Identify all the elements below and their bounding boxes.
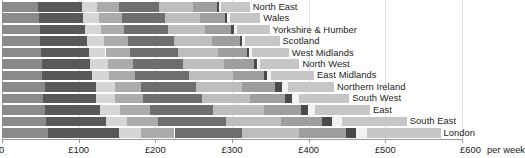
bar-segment[interactable] [292,94,299,104]
bar-segment[interactable] [90,59,108,69]
bar-segment[interactable] [299,94,350,104]
bar-segment[interactable] [332,117,341,127]
bar-segment[interactable] [264,105,301,115]
bar-segment[interactable] [130,48,178,58]
bar-segment[interactable] [42,59,90,69]
bar-segment[interactable] [43,94,97,104]
bar-segment[interactable] [96,94,114,104]
bar-segment[interactable] [275,82,282,92]
bar-segment[interactable] [356,128,367,138]
bar-segment[interactable] [42,71,92,81]
bar-segment[interactable] [299,128,347,138]
bar-segment[interactable] [260,59,299,69]
bar-segment[interactable] [2,2,38,12]
bar-segment[interactable] [2,128,48,138]
bar-segment[interactable] [322,117,333,127]
bar-segment[interactable] [183,59,224,69]
bar-segment[interactable] [205,25,231,35]
bar-segment[interactable] [40,36,87,46]
bar-segment[interactable] [92,71,110,81]
bar-segment[interactable] [2,25,40,35]
bar-segment[interactable] [224,59,254,69]
bar-segment[interactable] [97,2,118,12]
bar-segment[interactable] [119,2,160,12]
bar-segment[interactable] [175,128,242,138]
bar-segment[interactable] [89,48,106,58]
bar-segment[interactable] [2,94,43,104]
bar-segment[interactable] [178,48,218,58]
bar-segment[interactable] [165,13,200,23]
bar-segment[interactable] [367,128,441,138]
bar-segment[interactable] [99,13,121,23]
bar-segment[interactable] [301,105,308,115]
bar-segment[interactable] [150,105,213,115]
bar-segment[interactable] [226,117,281,127]
bar-segment[interactable] [2,48,41,58]
bar-segment[interactable] [82,2,97,12]
bar-segment[interactable] [346,128,356,138]
bar-segment[interactable] [127,117,158,127]
bar-segment[interactable] [200,13,225,23]
bar-segment[interactable] [202,94,250,104]
bar-segment[interactable] [230,13,261,23]
bar-segment[interactable] [41,48,89,58]
bar-segment[interactable] [212,36,240,46]
bar-segment[interactable] [109,71,135,81]
bar-segment[interactable] [2,117,46,127]
bar-segment[interactable] [213,105,264,115]
bar-segment[interactable] [141,82,196,92]
bar-segment[interactable] [122,13,165,23]
bar-segment[interactable] [218,48,246,58]
bar-segment[interactable] [83,13,99,23]
bar-segment[interactable] [2,36,40,46]
bar-segment[interactable] [288,82,334,92]
bar-segment[interactable] [271,71,314,81]
bar-segment[interactable] [48,128,119,138]
bar-segment[interactable] [128,36,174,46]
bar-segment[interactable] [101,25,124,35]
bar-segment[interactable] [106,117,127,127]
bar-segment[interactable] [87,36,104,46]
bar-segment[interactable] [158,117,225,127]
bar-segment[interactable] [100,105,120,115]
bar-segment[interactable] [315,105,370,115]
bar-segment[interactable] [115,82,140,92]
bar-segment[interactable] [2,59,42,69]
bar-segment[interactable] [85,25,101,35]
bar-segment[interactable] [168,25,205,35]
bar-segment[interactable] [108,59,133,69]
bar-segment[interactable] [250,94,285,104]
bar-segment[interactable] [133,59,183,69]
bar-segment[interactable] [115,94,143,104]
bar-segment[interactable] [141,128,175,138]
bar-segment[interactable] [233,71,264,81]
bar-segment[interactable] [2,105,45,115]
bar-segment[interactable] [46,117,106,127]
bar-segment[interactable] [2,71,42,81]
bar-segment[interactable] [242,128,299,138]
bar-segment[interactable] [159,2,193,12]
bar-segment[interactable] [237,25,270,35]
bar-segment[interactable] [124,25,168,35]
bar-segment[interactable] [245,36,280,46]
bar-segment[interactable] [143,94,202,104]
bar-segment[interactable] [119,128,141,138]
bar-segment[interactable] [2,13,39,23]
bar-segment[interactable] [242,82,275,92]
bar-segment[interactable] [221,2,249,12]
bar-segment[interactable] [174,36,212,46]
bar-segment[interactable] [96,82,116,92]
bar-segment[interactable] [38,2,82,12]
bar-segment[interactable] [106,48,131,58]
bar-segment[interactable] [342,117,407,127]
bar-segment[interactable] [252,48,289,58]
bar-segment[interactable] [40,25,85,35]
bar-segment[interactable] [39,13,83,23]
bar-segment[interactable] [189,71,233,81]
bar-segment[interactable] [285,94,292,104]
bar-segment[interactable] [45,105,100,115]
bar-segment[interactable] [193,2,217,12]
bar-segment[interactable] [281,117,322,127]
bar-segment[interactable] [308,105,315,115]
bar-segment[interactable] [196,82,242,92]
